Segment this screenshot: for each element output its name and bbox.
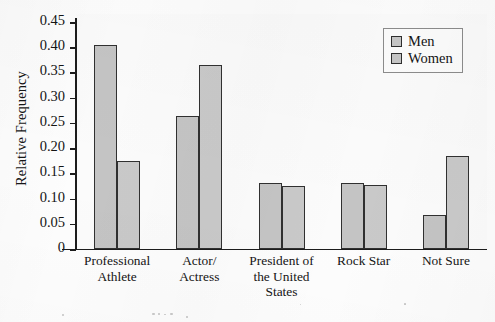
legend-label-men: Men	[408, 34, 435, 49]
y-tick-0.25: 0.25	[0, 123, 76, 124]
category-label-line: President of	[236, 253, 326, 269]
y-tick-mark	[70, 72, 76, 74]
y-tick-label: 0.10	[40, 189, 65, 206]
y-tick-label: 0.20	[40, 138, 65, 155]
y-tick-mark	[70, 123, 76, 125]
bar-chart-figure: Relative Frequency 00.050.100.150.200.25…	[0, 0, 495, 322]
legend-item-men: Men	[391, 33, 453, 50]
scan-speck	[186, 316, 188, 318]
scan-speck	[62, 314, 64, 316]
category-label-4: Not Sure	[401, 253, 491, 269]
y-tick-mark	[70, 98, 76, 100]
y-tick-mark	[70, 47, 76, 49]
legend-swatch-men-icon	[391, 36, 402, 47]
bar-men-group-1	[176, 116, 199, 249]
category-label-line: Not Sure	[401, 253, 491, 269]
scan-speck	[164, 314, 166, 316]
category-label-line: Actor/	[154, 253, 244, 269]
y-tick-0.35: 0.35	[0, 72, 76, 73]
category-label-line: States	[236, 284, 326, 300]
scan-speck	[404, 303, 406, 305]
y-tick-0.40: 0.40	[0, 47, 76, 48]
y-tick-label: 0.45	[40, 12, 65, 29]
category-label-line: Professional	[72, 253, 162, 269]
category-label-line: the United	[236, 269, 326, 285]
scan-artifact	[0, 300, 495, 322]
bar-women-group-2	[282, 186, 305, 249]
y-tick-mark	[70, 224, 76, 226]
y-tick-0.30: 0.30	[0, 98, 76, 99]
y-tick-label: 0.05	[40, 214, 65, 231]
y-tick-label: 0.15	[40, 163, 65, 180]
y-tick-0.05: 0.05	[0, 224, 76, 225]
category-label-0: ProfessionalAthlete	[72, 253, 162, 284]
y-tick-0: 0	[0, 249, 76, 250]
y-tick-label: 0.25	[40, 113, 65, 130]
y-tick-0.10: 0.10	[0, 199, 76, 200]
y-tick-mark	[70, 148, 76, 150]
bar-women-group-4	[446, 156, 469, 249]
y-tick-label: 0.35	[40, 62, 65, 79]
bar-men-group-3	[341, 183, 364, 249]
scan-speck	[158, 313, 160, 315]
scan-speck	[300, 304, 301, 305]
bar-women-group-3	[364, 185, 387, 249]
category-label-1: Actor/Actress	[154, 253, 244, 284]
y-tick-0.15: 0.15	[0, 173, 76, 174]
y-axis-line	[75, 18, 77, 250]
scan-speck	[170, 313, 173, 315]
y-tick-mark	[70, 199, 76, 201]
legend-swatch-women-icon	[391, 53, 402, 64]
y-tick-mark	[70, 173, 76, 175]
bar-women-group-1	[199, 65, 222, 249]
category-label-line: Actress	[154, 269, 244, 285]
category-label-2: President ofthe UnitedStates	[236, 253, 326, 300]
bar-women-group-0	[117, 161, 140, 249]
category-label-3: Rock Star	[319, 253, 409, 269]
bar-men-group-4	[423, 215, 446, 249]
legend-label-women: Women	[408, 51, 453, 66]
y-tick-mark	[70, 249, 76, 251]
y-tick-0.20: 0.20	[0, 148, 76, 149]
category-label-line: Rock Star	[319, 253, 409, 269]
scan-speck	[152, 313, 155, 315]
category-label-line: Athlete	[72, 269, 162, 285]
bar-men-group-0	[94, 45, 117, 249]
legend: Men Women	[383, 28, 463, 73]
legend-item-women: Women	[391, 50, 453, 67]
y-tick-label: 0	[58, 239, 65, 256]
bar-men-group-2	[259, 183, 282, 249]
y-tick-label: 0.40	[40, 37, 65, 54]
y-tick-label: 0.30	[40, 88, 65, 105]
y-tick-0.45: 0.45	[0, 22, 76, 23]
y-tick-mark	[70, 22, 76, 24]
